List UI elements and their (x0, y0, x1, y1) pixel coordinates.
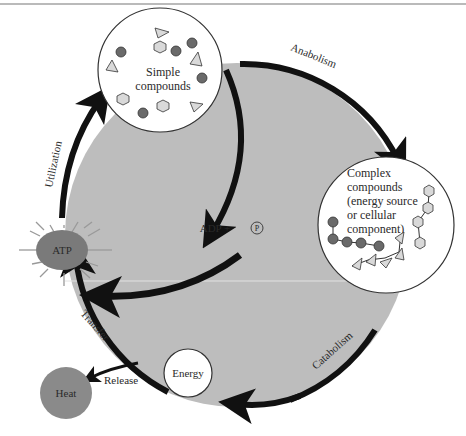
simple-compounds-label-line2: compounds (135, 79, 191, 93)
complex-label-line4: or cellular (347, 208, 396, 222)
atp-label: ATP (52, 244, 72, 256)
energy-label: Energy (172, 367, 204, 379)
complex-label-line5: component) (347, 222, 404, 236)
heat-label: Heat (56, 387, 77, 399)
metabolism-diagram: Simple compounds Complex compounds (ener… (0, 0, 466, 436)
complex-label-line2: compounds (347, 180, 403, 194)
complex-label-line3: (energy source (347, 194, 418, 208)
release-label: Release (104, 374, 138, 386)
phosphate-label: P (255, 224, 260, 233)
anabolism-label: Anabolism (289, 41, 339, 70)
complex-compounds-node: Complex compounds (energy source or cell… (318, 157, 454, 293)
utilization-label: Utilization (42, 139, 64, 188)
complex-label-line1: Complex (347, 166, 391, 180)
energy-node: Energy (164, 349, 212, 397)
simple-compounds-node: Simple compounds (98, 8, 222, 132)
simple-compounds-label-line1: Simple (146, 65, 180, 79)
heat-node: Heat (40, 367, 92, 419)
adp-label: ADP + (200, 222, 231, 234)
